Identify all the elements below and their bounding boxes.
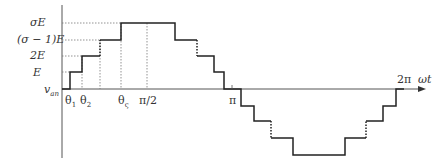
waveform-rise-b <box>366 89 404 121</box>
label-omega-t: ωt <box>418 74 431 85</box>
x-axis-arrow-icon <box>418 86 426 92</box>
label-pi-half: π/2 <box>139 95 157 106</box>
label-sigma-minus-1-e: (σ − 1)E <box>17 34 64 45</box>
label-2pi: 2π <box>397 74 411 85</box>
label-pi: π <box>229 95 236 106</box>
label-theta2: θ2 <box>80 95 91 109</box>
label-sigma-e: σE <box>30 17 46 28</box>
staircase-waveform-diagram <box>0 0 444 161</box>
label-2e: 2E <box>30 50 45 61</box>
level-guides <box>62 23 121 72</box>
waveform-top <box>100 23 197 40</box>
label-e: E <box>33 67 41 78</box>
label-v-an: van <box>44 84 59 98</box>
label-theta1: θ1 <box>65 95 76 109</box>
waveform-bottom <box>271 138 366 155</box>
label-theta-s: θς <box>118 95 129 109</box>
waveform-rise-a <box>62 56 100 89</box>
